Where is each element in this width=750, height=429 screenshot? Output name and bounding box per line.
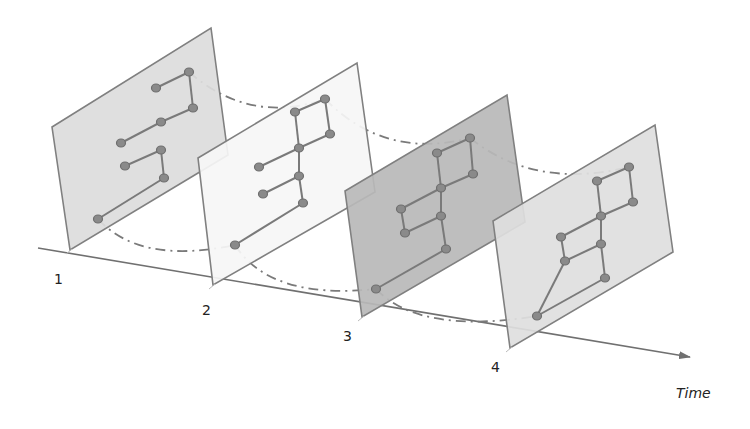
graph-node	[601, 274, 610, 282]
graph-node	[561, 257, 570, 265]
graph-node	[94, 215, 103, 223]
axis-tick	[358, 316, 364, 321]
graph-node	[185, 68, 194, 76]
graph-node	[189, 104, 198, 112]
graph-node	[442, 245, 451, 253]
graph-node	[593, 177, 602, 185]
graph-node	[117, 139, 126, 147]
axis-tick	[209, 284, 215, 289]
graph-node	[157, 146, 166, 154]
graph-node	[397, 205, 406, 213]
graph-node	[321, 95, 330, 103]
graph-node	[295, 144, 304, 152]
graph-node	[597, 212, 606, 220]
snapshot-panel-2	[198, 63, 375, 289]
snapshot-panel-1	[52, 28, 228, 254]
graph-node	[401, 229, 410, 237]
panel-plane	[52, 28, 228, 250]
snapshot-panel-4	[493, 125, 673, 352]
graph-node	[437, 184, 446, 192]
axis-tick	[506, 347, 512, 352]
snapshot-panels	[52, 28, 673, 352]
panel-plane	[345, 95, 525, 317]
graph-node	[597, 240, 606, 248]
graph-node	[157, 118, 166, 126]
graph-node	[291, 108, 300, 116]
graph-node	[557, 233, 566, 241]
snapshot-panel-3	[345, 95, 525, 321]
graph-node	[533, 312, 542, 320]
graph-node	[231, 241, 240, 249]
graph-node	[437, 212, 446, 220]
graph-node	[255, 163, 264, 171]
axis-labels: 1234	[54, 271, 500, 375]
time-step-label-3: 3	[343, 328, 352, 344]
graph-node	[259, 190, 268, 198]
temporal-graph-diagram: 1234 Time	[0, 0, 750, 429]
graph-node	[160, 174, 169, 182]
panel-plane	[493, 125, 673, 348]
graph-node	[466, 134, 475, 142]
time-step-label-2: 2	[202, 302, 211, 318]
graph-node	[433, 149, 442, 157]
graph-node	[121, 162, 130, 170]
graph-node	[326, 130, 335, 138]
panel-plane	[198, 63, 375, 285]
graph-node	[152, 84, 161, 92]
time-axis-label: Time	[676, 385, 711, 401]
graph-node	[469, 170, 478, 178]
graph-node	[625, 163, 634, 171]
graph-node	[372, 285, 381, 293]
graph-node	[299, 199, 308, 207]
graph-node	[295, 172, 304, 180]
time-step-label-4: 4	[491, 359, 500, 375]
time-step-label-1: 1	[54, 271, 63, 287]
graph-node	[629, 198, 638, 206]
